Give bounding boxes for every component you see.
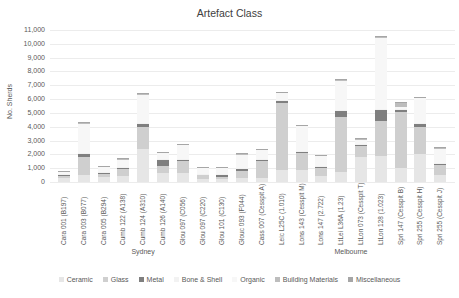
bar-segment-metal[interactable] <box>414 124 426 127</box>
bar-segment-glass[interactable] <box>256 161 268 178</box>
bar-segment-glass[interactable] <box>117 169 129 176</box>
bar-segment-glass[interactable] <box>315 168 327 176</box>
bar-segment-glass[interactable] <box>395 112 407 169</box>
bar-segment-bone-shell[interactable] <box>216 174 228 175</box>
bar-segment-building-materials[interactable] <box>177 144 189 145</box>
bar-segment-metal[interactable] <box>256 160 268 161</box>
bar-segment-glass[interactable] <box>276 103 288 169</box>
bar-segment-organic[interactable] <box>276 93 288 101</box>
bar-segment-organic[interactable] <box>236 154 248 168</box>
bar-segment-metal[interactable] <box>197 174 209 175</box>
bar-segment-ceramic[interactable] <box>157 173 169 182</box>
bar-stack[interactable] <box>177 0 189 182</box>
bar-segment-bone-shell[interactable] <box>434 163 446 164</box>
bar-segment-organic[interactable] <box>197 167 209 173</box>
bar-segment-metal[interactable] <box>137 124 149 127</box>
bar-stack[interactable] <box>98 0 110 182</box>
bar-segment-building-materials[interactable] <box>137 94 149 95</box>
bar-segment-glass[interactable] <box>216 177 228 179</box>
bar-segment-organic[interactable] <box>256 150 268 160</box>
bar-segment-metal[interactable] <box>157 160 169 166</box>
bar-segment-metal[interactable] <box>335 111 347 117</box>
bar-stack[interactable] <box>434 0 446 182</box>
bar-segment-metal[interactable] <box>78 154 90 157</box>
bar-stack[interactable] <box>395 0 407 182</box>
bar-segment-organic[interactable] <box>434 148 446 163</box>
bar-segment-ceramic[interactable] <box>375 156 387 182</box>
bar-segment-organic[interactable] <box>216 167 228 174</box>
bar-segment-building-materials[interactable] <box>117 159 129 160</box>
bar-segment-glass[interactable] <box>434 165 446 175</box>
legend-item[interactable]: Ceramic <box>59 276 93 283</box>
bar-segment-ceramic[interactable] <box>58 178 70 182</box>
bar-segment-glass[interactable] <box>296 153 308 170</box>
legend-item[interactable]: Metal <box>139 276 164 283</box>
bar-segment-building-materials[interactable] <box>414 97 426 98</box>
bar-segment-metal[interactable] <box>216 175 228 177</box>
bar-segment-metal[interactable] <box>375 109 387 121</box>
bar-segment-ceramic[interactable] <box>276 170 288 182</box>
bar-segment-metal[interactable] <box>177 159 189 161</box>
legend-item[interactable]: Bone & Shell <box>174 276 222 283</box>
bar-segment-organic[interactable] <box>137 94 149 123</box>
bar-stack[interactable] <box>414 0 426 182</box>
bar-segment-organic[interactable] <box>355 139 367 144</box>
bar-segment-building-materials[interactable] <box>395 103 407 107</box>
bar-stack[interactable] <box>276 0 288 182</box>
bar-segment-ceramic[interactable] <box>355 157 367 182</box>
bar-segment-building-materials[interactable] <box>98 166 110 167</box>
bar-segment-bone-shell[interactable] <box>414 123 426 124</box>
bar-stack[interactable] <box>335 0 347 182</box>
bar-segment-bone-shell[interactable] <box>276 100 288 101</box>
bar-segment-glass[interactable] <box>137 127 149 149</box>
bar-segment-organic[interactable] <box>78 124 90 153</box>
bar-segment-metal[interactable] <box>98 172 110 173</box>
bar-segment-ceramic[interactable] <box>137 149 149 182</box>
bar-segment-ceramic[interactable] <box>236 178 248 182</box>
bar-stack[interactable] <box>157 0 169 182</box>
bar-segment-bone-shell[interactable] <box>256 159 268 160</box>
bar-stack[interactable] <box>296 0 308 182</box>
bar-stack[interactable] <box>236 0 248 182</box>
bar-segment-metal[interactable] <box>117 167 129 168</box>
bar-segment-ceramic[interactable] <box>296 170 308 182</box>
bar-segment-glass[interactable] <box>98 174 110 177</box>
bar-segment-bone-shell[interactable] <box>157 159 169 160</box>
bar-segment-glass[interactable] <box>58 176 70 178</box>
bar-segment-glass[interactable] <box>177 161 189 173</box>
bar-segment-building-materials[interactable] <box>355 139 367 140</box>
bar-segment-ceramic[interactable] <box>177 173 189 182</box>
bar-segment-metal[interactable] <box>395 110 407 111</box>
bar-segment-organic[interactable] <box>395 107 407 110</box>
bar-segment-glass[interactable] <box>197 175 209 178</box>
bar-segment-building-materials[interactable] <box>375 37 387 38</box>
bar-segment-bone-shell[interactable] <box>395 109 407 110</box>
bar-segment-organic[interactable] <box>58 172 70 174</box>
bar-stack[interactable] <box>256 0 268 182</box>
bar-segment-organic[interactable] <box>335 80 347 110</box>
bar-segment-ceramic[interactable] <box>315 176 327 182</box>
bar-segment-glass[interactable] <box>335 117 347 172</box>
bar-segment-metal[interactable] <box>276 101 288 103</box>
bar-segment-bone-shell[interactable] <box>197 174 209 175</box>
bar-stack[interactable] <box>137 0 149 182</box>
bar-segment-bone-shell[interactable] <box>137 123 149 124</box>
bar-segment-building-materials[interactable] <box>335 80 347 81</box>
bar-stack[interactable] <box>216 0 228 182</box>
bar-segment-ceramic[interactable] <box>434 175 446 182</box>
bar-segment-metal[interactable] <box>58 175 70 176</box>
bar-segment-ceramic[interactable] <box>216 179 228 182</box>
bar-segment-bone-shell[interactable] <box>117 167 129 168</box>
bar-stack[interactable] <box>375 0 387 182</box>
bar-segment-building-materials[interactable] <box>78 123 90 124</box>
bar-segment-bone-shell[interactable] <box>296 151 308 152</box>
bar-segment-glass[interactable] <box>78 157 90 175</box>
bar-segment-bone-shell[interactable] <box>58 174 70 175</box>
legend-item[interactable]: Building Materials <box>275 276 338 283</box>
bar-segment-building-materials[interactable] <box>256 149 268 150</box>
bar-segment-organic[interactable] <box>157 153 169 159</box>
bar-segment-ceramic[interactable] <box>117 176 129 182</box>
bar-stack[interactable] <box>315 0 327 182</box>
bar-segment-organic[interactable] <box>296 126 308 151</box>
bar-segment-ceramic[interactable] <box>335 172 347 182</box>
